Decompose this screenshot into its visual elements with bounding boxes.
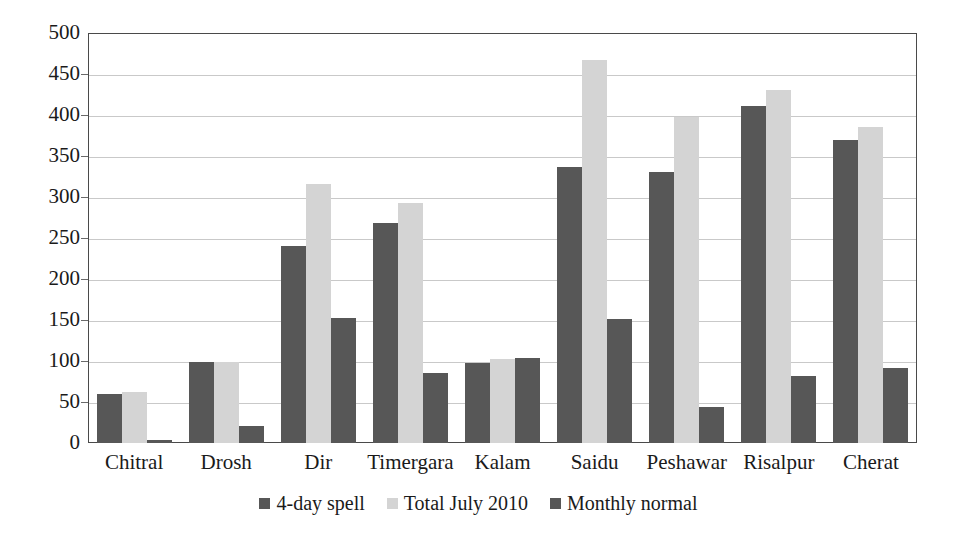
- y-tick-label: 450: [2, 63, 80, 84]
- x-tick-label: Risalpur: [733, 449, 825, 475]
- legend-label: 4-day spell: [276, 492, 364, 514]
- y-tick-label: 250: [2, 227, 80, 248]
- x-tick-label: Saidu: [549, 449, 641, 475]
- gridline: [89, 362, 916, 363]
- gridline: [89, 239, 916, 240]
- y-axis: 500450400350300250200150100500: [0, 0, 80, 541]
- y-tick-label: 200: [2, 268, 80, 289]
- legend-swatch-icon: [550, 498, 561, 509]
- legend-item[interactable]: Total July 2010: [387, 492, 528, 514]
- legend: 4-day spellTotal July 2010Monthly normal: [0, 492, 957, 514]
- legend-item[interactable]: 4-day spell: [259, 492, 364, 514]
- legend-swatch-icon: [387, 498, 398, 509]
- y-tick-label: 100: [2, 350, 80, 371]
- legend-label: Total July 2010: [404, 492, 528, 514]
- y-tick-label: 150: [2, 309, 80, 330]
- y-tick-label: 50: [2, 391, 80, 412]
- x-tick-label: Dir: [272, 449, 364, 475]
- x-tick-label: Timergara: [364, 449, 456, 475]
- gridline: [89, 403, 916, 404]
- y-tick-label: 0: [2, 432, 80, 453]
- gridline: [89, 198, 916, 199]
- y-tick-mark: [81, 279, 88, 280]
- y-tick-label: 300: [2, 186, 80, 207]
- x-tick-label: Chitral: [88, 449, 180, 475]
- x-tick-label: Cherat: [825, 449, 917, 475]
- legend-item[interactable]: Monthly normal: [550, 492, 698, 514]
- y-tick-label: 500: [2, 22, 80, 43]
- y-tick-mark: [81, 402, 88, 403]
- gridlines: [89, 34, 916, 442]
- y-tick-mark: [81, 197, 88, 198]
- x-axis: ChitralDroshDirTimergaraKalamSaiduPeshaw…: [88, 449, 917, 479]
- y-tick-mark: [81, 361, 88, 362]
- gridline: [89, 157, 916, 158]
- y-tick-label: 400: [2, 104, 80, 125]
- x-tick-label: Peshawar: [641, 449, 733, 475]
- x-tick-label: Drosh: [180, 449, 272, 475]
- legend-swatch-icon: [259, 498, 270, 509]
- gridline: [89, 321, 916, 322]
- y-tick-label: 350: [2, 145, 80, 166]
- gridline: [89, 75, 916, 76]
- y-tick-mark: [81, 320, 88, 321]
- bar-chart: 500450400350300250200150100500 ChitralDr…: [0, 0, 957, 541]
- y-tick-mark: [81, 156, 88, 157]
- y-tick-mark: [81, 74, 88, 75]
- gridline: [89, 280, 916, 281]
- y-tick-mark: [81, 115, 88, 116]
- plot-area: [88, 33, 917, 443]
- gridline: [89, 116, 916, 117]
- x-tick-label: Kalam: [456, 449, 548, 475]
- y-tick-mark: [81, 238, 88, 239]
- legend-label: Monthly normal: [567, 492, 698, 514]
